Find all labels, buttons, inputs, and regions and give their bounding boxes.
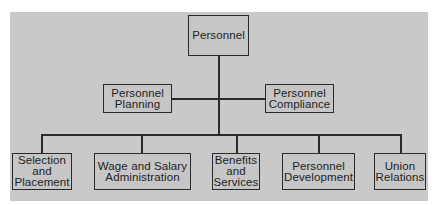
department-bus [41,134,401,136]
node-selection-placement: Selection and Placement [12,153,72,190]
node-union-relations: Union Relations [374,153,426,190]
node-personnel-development: Personnel Development [282,153,355,190]
node-label: Union Relations [376,161,425,183]
node-label: Personnel Development [284,161,353,183]
node-label: Selection and Placement [14,155,69,188]
node-label: Wage and Salary Administration [98,161,187,183]
drop-development [318,134,320,153]
node-label: Benefits and Services [214,155,259,188]
drop-benefits [236,134,238,153]
node-label: Personnel Planning [111,88,164,110]
drop-wage [141,134,143,153]
drop-selection [41,134,43,153]
trunk-connector [218,55,220,135]
node-personnel-compliance: Personnel Compliance [265,84,334,113]
node-personnel-planning: Personnel Planning [103,84,172,113]
node-label: Personnel Compliance [269,88,331,110]
staff-connector [171,98,265,100]
node-wage-salary-administration: Wage and Salary Administration [94,153,191,190]
drop-union [400,134,402,153]
node-personnel: Personnel [188,15,249,56]
node-label: Personnel [192,30,245,41]
node-benefits-services: Benefits and Services [212,153,260,190]
